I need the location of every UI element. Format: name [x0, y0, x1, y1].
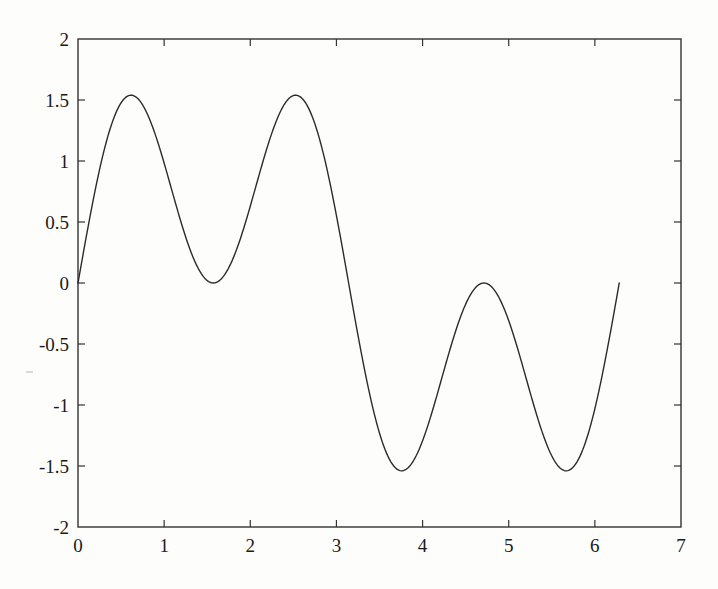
- x-tick-label: 3: [332, 536, 342, 555]
- x-tick-label: 7: [676, 536, 686, 555]
- y-tick-label: 0.5: [10, 213, 69, 232]
- data-line: [78, 95, 619, 471]
- axes-frame: [78, 39, 681, 527]
- series-paths: [78, 95, 619, 471]
- x-tick-label: 2: [246, 536, 256, 555]
- y-tick-label: 1.5: [10, 91, 69, 110]
- y-tick-label: -0.5: [10, 335, 69, 354]
- y-tick-label: 0: [10, 274, 69, 293]
- x-tick-label: 0: [73, 536, 83, 555]
- y-tick-label: -1: [10, 396, 69, 415]
- x-tick-label: 5: [504, 536, 514, 555]
- y-tick-label: -2: [10, 518, 69, 537]
- y-tick-label: 2: [10, 30, 69, 49]
- figure-container: -2-1.5-1-0.500.511.52 01234567: [0, 0, 718, 589]
- y-tick-label: -1.5: [10, 457, 69, 476]
- x-tick-label: 1: [159, 536, 169, 555]
- plot-canvas: [0, 0, 718, 589]
- x-tick-label: 4: [418, 536, 428, 555]
- x-tick-label: 6: [590, 536, 600, 555]
- y-tick-label: 1: [10, 152, 69, 171]
- scan-artifact-speck: [26, 371, 33, 373]
- tick-marks: [78, 39, 681, 527]
